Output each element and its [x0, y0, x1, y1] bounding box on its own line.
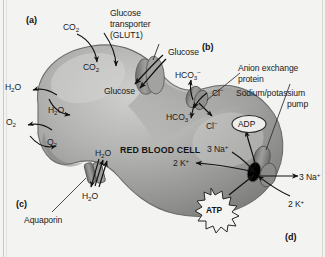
panel-label-c: (c) — [16, 199, 27, 209]
molecule-o2-outside: O2 — [6, 117, 16, 130]
anion-exchange-label-line2: protein — [238, 74, 264, 84]
molecule-cl-inside: Cl− — [206, 119, 217, 131]
glucose-transporter-label-line1: Glucose — [110, 8, 141, 18]
panel-label-a: (a) — [26, 15, 37, 25]
glucose-transporter-label-line3: (GLUT1) — [110, 30, 143, 40]
molecule-cl-outside: Cl− — [212, 86, 223, 98]
aquaporin-label: Aquaporin — [24, 215, 62, 225]
molecule-na-inside: 3 Na+ — [207, 142, 228, 154]
anion-exchange-label-line1: Anion exchange — [238, 63, 298, 73]
molecule-h2o-inside: H2O — [48, 105, 64, 118]
molecule-k-outside: 2 K+ — [288, 197, 304, 209]
sodium-potassium-label-line1: Sodium/potassium — [236, 88, 305, 98]
glut1-transporter-icon — [135, 44, 166, 94]
molecule-glucose-outside: Glucose — [168, 47, 199, 57]
molecule-hco3-outside: HCO3− — [175, 68, 201, 83]
molecule-o2-inside: O2 — [47, 137, 57, 150]
molecule-hco3-inside: HCO3− — [166, 110, 192, 125]
aquaporin-icon — [52, 159, 107, 212]
figure-root: (a) (b) (c) (d) Glucose transporter (GLU… — [0, 0, 325, 257]
molecule-h2o-aquaporin-top: H2O — [95, 148, 111, 161]
sodium-potassium-label-line2: pump — [287, 99, 308, 109]
red-blood-cell-label: RED BLOOD CELL — [120, 145, 200, 155]
molecule-co2-outside: CO2 — [63, 22, 79, 35]
glucose-transporter-label-line2: transporter — [110, 19, 150, 29]
molecule-glucose-inside: Glucose — [104, 86, 135, 96]
molecule-atp: ATP — [206, 205, 222, 215]
molecule-adp: ADP — [238, 119, 255, 129]
molecule-h2o-aquaporin-bottom: H2O — [82, 191, 98, 204]
molecule-h2o-outside: H2O — [5, 82, 21, 95]
molecule-na-outside: 3 Na+ — [299, 170, 320, 182]
molecule-co2-inside: CO2 — [83, 62, 99, 75]
panel-label-d: (d) — [285, 232, 297, 242]
molecule-k-inside: 2 K+ — [173, 156, 189, 168]
panel-label-b: (b) — [202, 42, 214, 52]
